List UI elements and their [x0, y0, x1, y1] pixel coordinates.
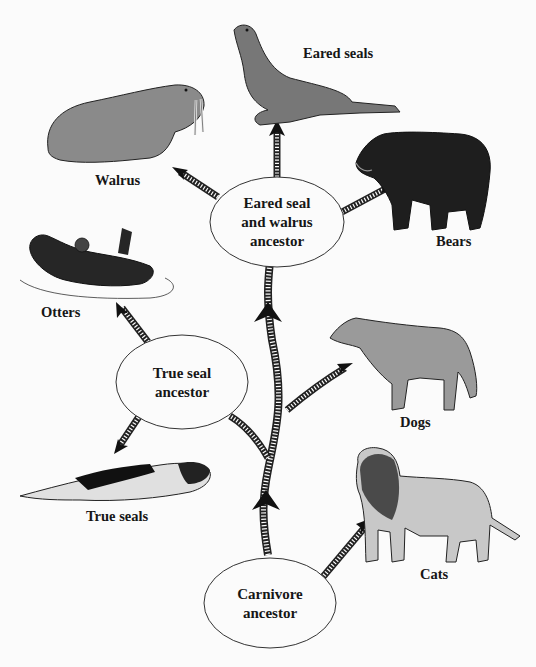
label-line: ancestor [204, 604, 336, 623]
label-carnivore-ancestor: Carnivore ancestor [204, 585, 336, 623]
label-eared-walrus-ancestor: Eared seal and walrus ancestor [210, 194, 344, 251]
label-true-seal-ancestor: True seal ancestor [116, 364, 248, 402]
label-line: True seal [116, 364, 248, 383]
true-seal-illustration [20, 462, 210, 501]
label-otters: Otters [41, 304, 80, 321]
label-eared-seals: Eared seals [303, 45, 373, 62]
branch-to-true-seal-ancestor [230, 416, 268, 458]
label-dogs: Dogs [400, 414, 431, 431]
label-walrus: Walrus [95, 172, 140, 189]
dog-illustration [330, 318, 477, 410]
lion-illustration [356, 448, 520, 562]
otter-illustration [20, 228, 173, 298]
bear-illustration [356, 132, 490, 230]
label-cats: Cats [420, 566, 448, 583]
label-line: and walrus [210, 213, 344, 232]
label-bears: Bears [436, 233, 471, 250]
label-true-seals: True seals [86, 508, 148, 525]
phylogeny-diagram: Eared seal and walrus ancestor True seal… [0, 0, 536, 667]
label-line: ancestor [210, 232, 344, 251]
branch-to-true-seals [120, 415, 140, 445]
label-line: Eared seal [210, 194, 344, 213]
label-line: Carnivore [204, 585, 336, 604]
diagram-graphics [0, 0, 536, 667]
label-line: ancestor [116, 383, 248, 402]
walrus-illustration [48, 85, 204, 162]
eared-seal-illustration [234, 25, 400, 125]
